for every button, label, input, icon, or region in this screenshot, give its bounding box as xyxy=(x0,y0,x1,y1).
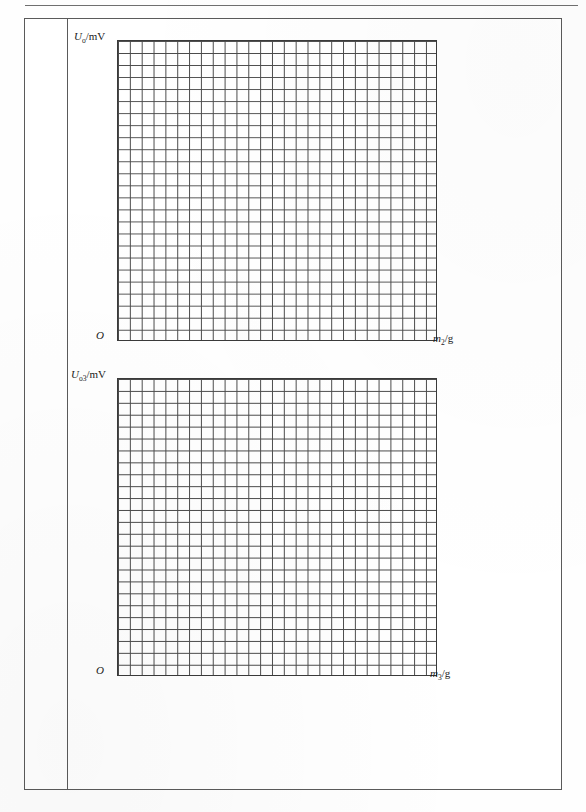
plot-2-y-variable: U xyxy=(71,368,79,380)
plot-1-y-unit: mV xyxy=(89,30,106,42)
plot-2-grid[interactable] xyxy=(117,378,437,676)
page-margin-column xyxy=(25,19,67,789)
page-top-rule xyxy=(25,5,578,6)
plot-2-origin-label: O xyxy=(96,665,104,676)
plot-1-origin-label: O xyxy=(96,330,104,341)
page-margin-rule xyxy=(67,18,68,790)
plot-1-x-variable: m xyxy=(433,332,441,344)
plot-1-grid[interactable] xyxy=(117,40,437,341)
plot-1-x-unit: g xyxy=(448,332,454,344)
plot-2-x-variable: m xyxy=(430,667,438,679)
plot-2-x-unit: g xyxy=(445,667,451,679)
plot-2-y-axis-label: Uo3/mV xyxy=(71,369,106,383)
plot-2-y-unit: mV xyxy=(90,368,107,380)
plot-1-x-axis-label: m2/g xyxy=(433,333,453,347)
plot-1-y-axis-label: Uo/mV xyxy=(74,31,105,45)
plot-1-y-variable: U xyxy=(74,30,82,42)
plot-2-x-axis-label: m3/g xyxy=(430,668,450,682)
